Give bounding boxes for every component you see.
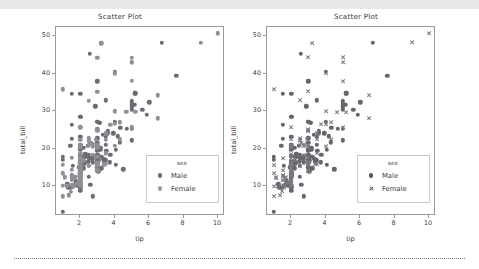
plot-title-left: Scatter Plot xyxy=(8,12,232,21)
data-point xyxy=(61,194,65,198)
data-point xyxy=(279,144,283,148)
data-point xyxy=(87,174,91,178)
data-point xyxy=(289,174,294,179)
data-point xyxy=(87,164,91,168)
data-point xyxy=(104,137,108,141)
data-point xyxy=(280,136,284,140)
data-point xyxy=(121,167,125,171)
x-tick-mark xyxy=(148,215,149,218)
x-tick-label: 10 xyxy=(207,219,227,227)
data-point xyxy=(329,120,334,125)
data-point xyxy=(99,41,103,45)
legend-item-male-right[interactable]: Male xyxy=(363,169,423,182)
data-point xyxy=(310,41,315,46)
data-point xyxy=(358,100,362,104)
x-tick-mark xyxy=(394,215,395,218)
data-point xyxy=(78,115,82,119)
data-point xyxy=(301,194,305,198)
data-point xyxy=(306,55,311,60)
legend-label-male-right: Male xyxy=(379,172,398,180)
data-point xyxy=(306,160,311,165)
x-tick-mark xyxy=(217,215,218,218)
data-point xyxy=(272,194,277,199)
data-point xyxy=(272,162,277,167)
data-point xyxy=(67,193,71,197)
legend-marker-circle-icon xyxy=(363,173,379,178)
x-axis-label-left: tip xyxy=(55,235,224,243)
data-point xyxy=(276,184,281,189)
data-point xyxy=(344,91,348,95)
data-point xyxy=(133,91,137,95)
y-tick-label: 50 xyxy=(28,31,50,39)
data-point xyxy=(427,31,432,36)
data-point xyxy=(280,122,284,126)
data-point xyxy=(306,154,311,159)
x-tick-label: 6 xyxy=(138,219,158,227)
data-point xyxy=(280,178,285,183)
data-point xyxy=(371,41,375,45)
data-point xyxy=(304,104,308,108)
data-point xyxy=(272,87,277,92)
data-point xyxy=(336,127,340,131)
data-point xyxy=(112,109,116,113)
data-point xyxy=(319,153,323,157)
data-point xyxy=(341,138,345,142)
data-point xyxy=(385,74,389,78)
data-point xyxy=(156,93,160,97)
data-point xyxy=(118,126,122,130)
data-point xyxy=(112,122,116,126)
data-point xyxy=(299,52,303,56)
legend-item-female-left[interactable]: Female xyxy=(152,182,212,195)
data-point xyxy=(314,161,319,166)
y-tick-label: 10 xyxy=(28,181,50,189)
bottom-separator xyxy=(14,258,465,259)
data-point xyxy=(78,125,82,129)
legend-title-left: sex xyxy=(152,160,212,166)
data-point xyxy=(90,194,94,198)
data-point xyxy=(156,116,160,120)
data-point xyxy=(306,128,311,133)
data-point xyxy=(61,87,65,91)
scatter-panel-right: Scatter Plot total_bill tip 1020304050 2… xyxy=(240,9,472,254)
data-point xyxy=(78,92,82,96)
data-point xyxy=(315,131,320,136)
data-point xyxy=(289,125,294,130)
data-point xyxy=(323,71,328,76)
data-point xyxy=(273,175,278,180)
data-point xyxy=(329,126,333,130)
data-point xyxy=(95,55,99,59)
data-point xyxy=(410,40,415,45)
data-point xyxy=(306,169,311,174)
y-tick-label: 10 xyxy=(239,181,261,189)
y-tick-label: 40 xyxy=(239,69,261,77)
data-point xyxy=(366,93,371,98)
data-point xyxy=(280,174,285,179)
data-point xyxy=(289,161,294,166)
data-point xyxy=(69,168,73,172)
plot-title-right: Scatter Plot xyxy=(240,12,472,21)
data-point xyxy=(332,167,336,171)
data-point xyxy=(325,163,329,167)
data-point xyxy=(315,143,319,147)
data-point xyxy=(289,115,293,119)
data-point xyxy=(299,183,303,187)
legend-right: sex Male Female xyxy=(357,155,430,203)
x-tick-label: 10 xyxy=(418,219,438,227)
x-tick-mark xyxy=(359,215,360,218)
x-tick-label: 2 xyxy=(69,219,89,227)
data-point xyxy=(130,60,134,64)
legend-item-male-left[interactable]: Male xyxy=(152,169,212,182)
data-point xyxy=(61,163,65,167)
x-tick-label: 8 xyxy=(384,219,404,227)
x-tick-mark xyxy=(290,215,291,218)
data-point xyxy=(70,185,74,189)
data-point xyxy=(69,122,73,126)
legend-item-female-right[interactable]: Female xyxy=(363,182,423,195)
y-tick-label: 30 xyxy=(239,106,261,114)
data-point xyxy=(278,193,283,198)
top-bar xyxy=(0,0,479,9)
y-axis-label-left: total_bill xyxy=(19,126,27,154)
data-point xyxy=(306,89,311,94)
data-point xyxy=(323,122,328,127)
x-tick-label: 4 xyxy=(315,219,335,227)
